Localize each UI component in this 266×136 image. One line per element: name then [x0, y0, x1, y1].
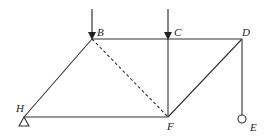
node-label-H: H	[16, 103, 24, 114]
node-label-B: B	[97, 27, 104, 38]
member-B-F-dashed	[92, 39, 168, 117]
member-F-D	[168, 39, 242, 117]
node-label-C: C	[174, 27, 181, 38]
node-label-F: F	[167, 121, 174, 132]
member-H-B	[24, 39, 92, 117]
node-label-E: E	[250, 122, 257, 133]
node-label-D: D	[242, 27, 250, 38]
truss-diagram	[0, 0, 266, 136]
hanging-circle-E	[238, 115, 246, 123]
pin-support-triangle	[19, 117, 29, 126]
